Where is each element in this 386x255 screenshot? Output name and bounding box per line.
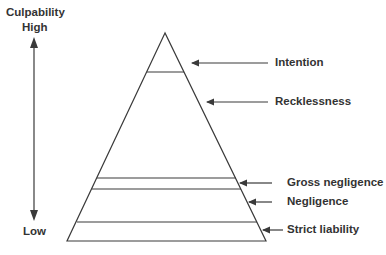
label-gross-negligence: Gross negligence (287, 177, 384, 189)
label-strict-liability: Strict liability (287, 224, 359, 236)
axis-title: Culpability (6, 7, 65, 19)
axis-low-label: Low (23, 226, 46, 238)
axis-high-label: High (22, 22, 48, 34)
label-recklessness: Recklessness (275, 96, 351, 108)
culpability-axis-arrow (30, 37, 38, 221)
label-intention: Intention (275, 57, 324, 69)
label-negligence: Negligence (287, 196, 348, 208)
culpability-pyramid-diagram (0, 0, 386, 255)
pyramid-outline (67, 33, 266, 241)
